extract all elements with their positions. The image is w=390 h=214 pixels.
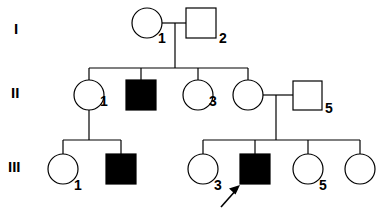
male-square-ii-5[interactable] xyxy=(293,81,322,110)
individual-ii-1[interactable]: 1 xyxy=(74,80,108,110)
generation-label-ii: II xyxy=(11,84,19,101)
male-square-affected-ii-2[interactable] xyxy=(126,80,156,110)
individual-ii-4[interactable] xyxy=(233,80,263,110)
generation-label-i: I xyxy=(14,20,18,37)
individual-iii-5[interactable]: 5 xyxy=(293,154,327,193)
individual-iii-2[interactable] xyxy=(106,154,136,184)
male-square-i-2[interactable] xyxy=(186,8,216,38)
individual-ii-5[interactable]: 5 xyxy=(293,81,333,116)
individual-iii-6[interactable] xyxy=(345,154,375,184)
individual-i-1[interactable]: 1 xyxy=(132,8,166,46)
male-square-affected-iii-4[interactable] xyxy=(240,154,270,184)
id-label-ii-5: 5 xyxy=(325,100,333,116)
generation-label-iii: III xyxy=(8,158,21,175)
proband-arrow-head xyxy=(229,185,240,195)
id-label-iii-5: 5 xyxy=(319,177,327,193)
proband-arrow-icon xyxy=(221,185,240,207)
female-circle-ii-4[interactable] xyxy=(233,80,263,110)
female-circle-iii-6[interactable] xyxy=(345,154,375,184)
individual-ii-3[interactable]: 3 xyxy=(183,80,217,110)
individual-ii-2[interactable] xyxy=(126,80,156,110)
id-label-ii-1: 1 xyxy=(100,93,108,109)
individual-iii-3[interactable]: 3 xyxy=(188,154,222,193)
id-label-i-1: 1 xyxy=(158,30,166,46)
pedigree-chart: I II III xyxy=(0,0,390,214)
individual-iii-4-proband[interactable] xyxy=(240,154,270,184)
male-square-affected-iii-2[interactable] xyxy=(106,154,136,184)
id-label-ii-3: 3 xyxy=(209,93,217,109)
individual-i-2[interactable]: 2 xyxy=(186,8,227,46)
pedigree-canvas: I II III xyxy=(0,0,390,214)
id-label-iii-1: 1 xyxy=(74,177,82,193)
id-label-i-2: 2 xyxy=(219,30,227,46)
individual-iii-1[interactable]: 1 xyxy=(48,154,82,193)
id-label-iii-3: 3 xyxy=(214,177,222,193)
